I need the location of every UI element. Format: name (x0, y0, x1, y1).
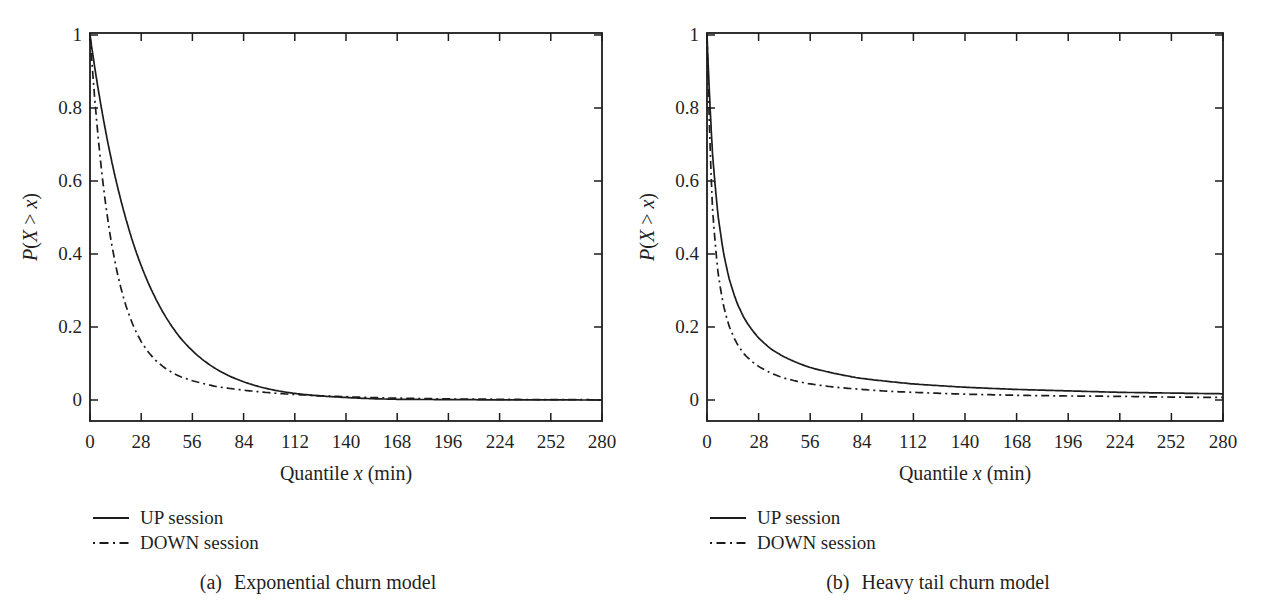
x-tick-label: 56 (183, 431, 202, 453)
legend-b: UP session DOWN session (709, 505, 876, 555)
y-tick-label: 0.4 (643, 243, 699, 265)
label-text: > (19, 209, 41, 230)
dashdot-line-swatch-icon (92, 539, 130, 547)
x-tick-label: 196 (1054, 431, 1083, 453)
caption-index: (a) (200, 571, 222, 593)
legend-item-up-session: UP session (92, 505, 259, 530)
math-variable: X (19, 230, 41, 242)
x-tick-label: 224 (1106, 431, 1135, 453)
series-line-up-session (90, 35, 602, 400)
x-tick-label: 280 (1209, 431, 1238, 453)
x-tick-label: 28 (132, 431, 151, 453)
y-tick-label: 0 (26, 389, 82, 411)
legend-item-down-session: DOWN session (709, 530, 876, 555)
x-tick-label: 140 (951, 431, 980, 453)
legend-label: DOWN session (140, 532, 259, 554)
legend-a: UP session DOWN session (92, 505, 259, 555)
x-tick-label: 196 (434, 431, 463, 453)
legend-label: UP session (140, 507, 223, 529)
label-text: (min) (982, 462, 1031, 484)
figure-canvas: P(X > x) Quantile x (min) P(X > x) Quant… (0, 0, 1264, 616)
label-text: Quantile (280, 462, 354, 484)
y-tick-label: 0.6 (26, 170, 82, 192)
x-tick-label: 140 (332, 431, 361, 453)
math-variable: x (636, 200, 658, 209)
y-tick-label: 0.2 (643, 316, 699, 338)
caption-text: Exponential churn model (234, 571, 436, 593)
x-tick-label: 252 (1157, 431, 1186, 453)
x-tick-label: 224 (486, 431, 515, 453)
x-tick-label: 56 (801, 431, 820, 453)
y-tick-label: 0 (643, 389, 699, 411)
label-text: (min) (363, 462, 412, 484)
y-tick-label: 0.8 (643, 97, 699, 119)
x-tick-label: 168 (1003, 431, 1032, 453)
x-tick-label: 112 (281, 431, 309, 453)
x-tick-label: 84 (853, 431, 872, 453)
label-text: ) (19, 193, 41, 200)
label-text: Quantile (899, 462, 973, 484)
solid-line-swatch-icon (92, 514, 130, 522)
caption-text: Heavy tail churn model (862, 571, 1050, 593)
series-line-up-session (707, 35, 1223, 394)
math-variable: x (354, 462, 363, 484)
label-text: ) (636, 193, 658, 200)
math-variable: x (19, 200, 41, 209)
y-tick-label: 0.4 (26, 243, 82, 265)
x-tick-label: 252 (537, 431, 566, 453)
series-line-down-session (90, 35, 602, 400)
x-tick-label: 28 (750, 431, 769, 453)
caption-index: (b) (826, 571, 849, 593)
x-tick-label: 0 (85, 431, 95, 453)
x-tick-label: 280 (588, 431, 617, 453)
subfigure-caption-a: (a)Exponential churn model (118, 571, 518, 594)
series-line-down-session (707, 35, 1223, 397)
x-axis-label-b: Quantile x (min) (899, 462, 1031, 485)
plot-frame-b (707, 33, 1223, 421)
legend-item-down-session: DOWN session (92, 530, 259, 555)
legend-item-up-session: UP session (709, 505, 876, 530)
math-variable: x (973, 462, 982, 484)
x-axis-label-a: Quantile x (min) (280, 462, 412, 485)
y-tick-label: 0.2 (26, 316, 82, 338)
math-variable: X (636, 230, 658, 242)
subfigure-caption-b: (b)Heavy tail churn model (738, 571, 1138, 594)
x-tick-label: 0 (702, 431, 712, 453)
legend-label: UP session (757, 507, 840, 529)
x-tick-label: 168 (383, 431, 412, 453)
y-tick-label: 1 (26, 24, 82, 46)
dashdot-line-swatch-icon (709, 539, 747, 547)
plot-frame-a (90, 33, 602, 421)
solid-line-swatch-icon (709, 514, 747, 522)
y-tick-label: 0.6 (643, 170, 699, 192)
x-tick-label: 112 (899, 431, 927, 453)
legend-label: DOWN session (757, 532, 876, 554)
y-tick-label: 1 (643, 24, 699, 46)
x-tick-label: 84 (235, 431, 254, 453)
y-tick-label: 0.8 (26, 97, 82, 119)
label-text: > (636, 209, 658, 230)
